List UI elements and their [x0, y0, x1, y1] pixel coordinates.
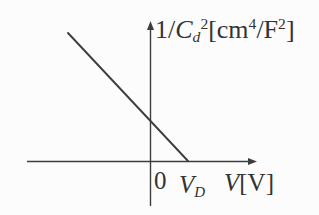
y-label-variable: C	[175, 15, 192, 44]
y-label-unit-open: [cm	[208, 15, 248, 44]
y-label-unit-close: ]	[286, 15, 295, 44]
y-label-unit-mid: /F	[256, 15, 278, 44]
x-label-variable: V	[224, 169, 239, 196]
x-intercept-label: VD	[179, 172, 205, 197]
y-label-variable-superscript: 2	[200, 15, 208, 32]
origin-tick-label: 0	[154, 168, 167, 193]
mott-schottky-figure: 1/Cd2[cm4/F2] 0 VD V[V]	[0, 0, 319, 215]
x-axis-label: V[V]	[224, 170, 274, 195]
x-label-unit: [V]	[239, 169, 274, 196]
y-axis-label: 1/Cd2[cm4/F2]	[155, 17, 295, 43]
y-label-unit-superscript-2: 2	[278, 15, 286, 32]
y-label-prefix: 1/	[155, 15, 175, 44]
x-intercept-subscript: D	[194, 184, 205, 200]
x-intercept-variable: V	[179, 171, 194, 198]
series-line	[68, 33, 188, 161]
y-label-unit-superscript-1: 4	[249, 15, 257, 32]
